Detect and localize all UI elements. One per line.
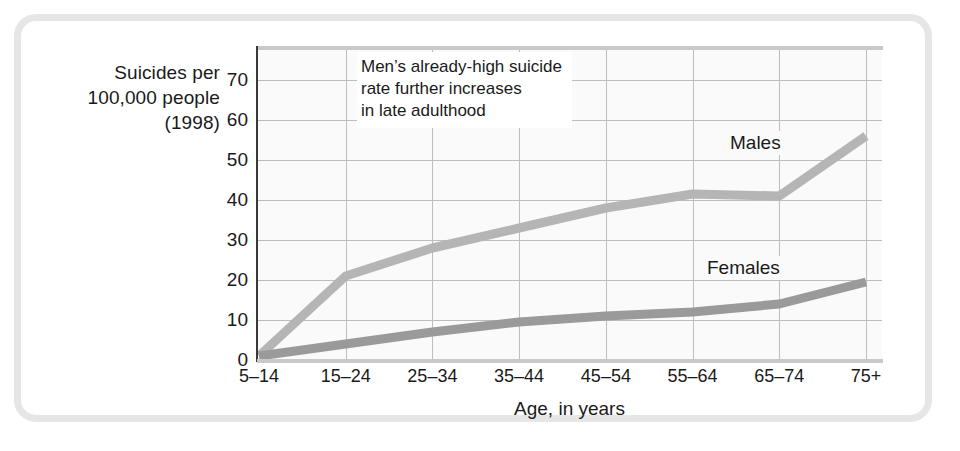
plot-top-rule [257, 46, 883, 50]
y-tick-label: 50 [192, 149, 248, 171]
y-tick-label: 30 [192, 229, 248, 251]
series-label-males: Males [723, 131, 788, 155]
annotation-line-3: in late adulthood [361, 100, 562, 122]
x-tick-labels: 5–1415–2425–3435–4445–5455–6465–7475+ [257, 366, 882, 396]
x-tick-label: 45–54 [581, 366, 631, 387]
y-tick-label: 40 [192, 189, 248, 211]
x-tick-label: 15–24 [321, 366, 371, 387]
x-tick-label: 5–14 [239, 366, 279, 387]
x-tick-label: 25–34 [407, 366, 457, 387]
y-axis-line [256, 46, 258, 362]
y-tick-label: 70 [192, 69, 248, 91]
x-tick-label: 75+ [851, 366, 882, 387]
annotation-line-2: rate further increases [361, 78, 562, 100]
annotation-line-1: Men’s already-high suicide [361, 56, 562, 78]
x-axis-title: Age, in years [257, 398, 882, 420]
x-tick-label: 55–64 [668, 366, 718, 387]
series-line-females [259, 282, 866, 356]
y-tick-label: 60 [192, 109, 248, 131]
chart-figure: Suicides per 100,000 people (1998) 01020… [0, 0, 960, 451]
annotation-callout: Men’s already-high suicide rate further … [357, 52, 572, 128]
y-tick-label: 10 [192, 309, 248, 331]
series-label-females: Females [700, 256, 787, 280]
y-tick-label: 20 [192, 269, 248, 291]
x-tick-label: 35–44 [494, 366, 544, 387]
x-tick-label: 65–74 [754, 366, 804, 387]
x-axis-line [257, 359, 883, 363]
